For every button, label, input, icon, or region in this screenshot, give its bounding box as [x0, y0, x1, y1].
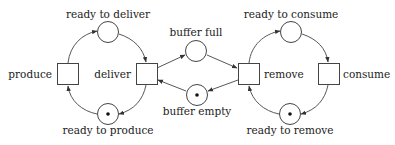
place-ready-to-produce	[98, 104, 119, 125]
label-ready-to-consume: ready to consume	[244, 8, 339, 20]
arc-deliver-to-buffer-full	[157, 55, 185, 68]
arc-buffer-empty-to-deliver	[158, 80, 186, 91]
label-buffer-full: buffer full	[170, 26, 224, 38]
place-ready-to-deliver	[98, 22, 119, 43]
label-ready-to-produce: ready to produce	[62, 124, 153, 136]
transition-deliver	[137, 64, 158, 85]
label-consume: consume	[343, 68, 390, 80]
transition-consume	[319, 64, 340, 85]
token	[195, 93, 199, 97]
transition-remove	[239, 64, 260, 85]
token	[106, 112, 110, 116]
arc-ready-to-remove-to-remove	[249, 86, 279, 114]
label-buffer-empty: buffer empty	[163, 105, 232, 117]
place-buffer-full	[186, 41, 207, 62]
arc-deliver-to-ready-to-produce	[119, 85, 146, 114]
label-produce: produce	[8, 68, 52, 80]
arc-remove-to-buffer-empty	[208, 80, 238, 91]
place-buffer-empty	[187, 85, 208, 106]
label-ready-to-deliver: ready to deliver	[66, 8, 151, 20]
arc-buffer-full-to-remove	[207, 55, 237, 68]
arc-produce-to-ready-to-deliver	[68, 31, 97, 63]
arc-ready-to-deliver-to-deliver	[119, 34, 146, 62]
place-ready-to-remove	[280, 104, 301, 125]
label-ready-to-remove: ready to remove	[246, 124, 333, 136]
place-ready-to-consume	[281, 22, 302, 43]
arc-ready-to-produce-to-produce	[68, 86, 97, 114]
transition-produce	[58, 64, 79, 85]
arc-remove-to-ready-to-consume	[249, 31, 280, 63]
arc-consume-to-ready-to-remove	[301, 85, 328, 114]
label-remove: remove	[264, 68, 304, 80]
arc-ready-to-consume-to-consume	[302, 34, 328, 62]
label-deliver: deliver	[94, 68, 132, 80]
token	[288, 112, 292, 116]
petri-net-diagram: ready to deliver ready to produce buffer…	[0, 0, 395, 145]
